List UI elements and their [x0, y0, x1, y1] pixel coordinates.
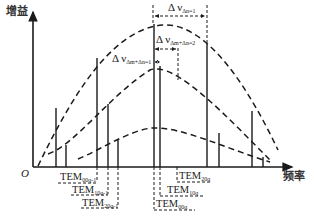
- mode-label-tem20q: TEM20q: [179, 171, 210, 182]
- gain-frequency-diagram: 增益 频率 O Δ νΔn=1 Δ νΔm+Δn=2 Δ νΔm+Δn=1 TE…: [0, 0, 314, 219]
- gain-curve-inner: [78, 128, 270, 162]
- delta-nu-label-dmdn2: Δ νΔm+Δn=2: [156, 34, 195, 46]
- delta-nu-label-dn1: Δ νΔn=1: [168, 2, 195, 14]
- mode-label-tem10q-1: TEM10q-1: [72, 185, 108, 196]
- gain-curve-middle: [48, 69, 270, 160]
- mode-label-tem20q-1: TEM20q-1: [82, 198, 118, 209]
- mode-label-tem10q: TEM10q: [167, 185, 198, 196]
- mode-label-tem00q-1: TEM00q-1: [60, 172, 96, 183]
- delta-nu-label-dmdn1: Δ νΔm+Δn=1: [112, 53, 151, 65]
- x-axis-label: 频率: [283, 171, 305, 182]
- origin-label: O: [21, 168, 29, 179]
- y-axis-label: 增益: [6, 6, 28, 17]
- gain-curve-outer: [38, 25, 278, 166]
- mode-label-tem00q: TEM00q: [156, 199, 187, 210]
